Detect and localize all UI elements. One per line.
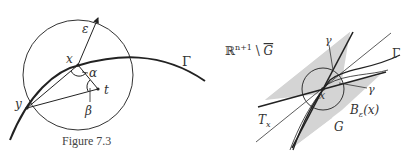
label-x-right: x: [319, 89, 326, 102]
alpha-leader: [82, 72, 88, 73]
gamma-curve: [10, 57, 205, 140]
label-alpha: α: [89, 66, 97, 80]
right-figure: ℝn+1 \ G γ Γ γ x Bε(x) Tx G: [225, 32, 400, 150]
point-y: [25, 106, 28, 109]
label-gamma-top: γ: [325, 34, 332, 47]
label-ball: Bε(x): [349, 103, 380, 119]
label-gamma-curve-right: Γ: [392, 47, 400, 61]
label-gamma-curve: Γ: [182, 54, 191, 69]
left-figure: ε x α t y β Γ Figure 7.3: [10, 18, 205, 148]
figure-caption: Figure 7.3: [62, 134, 111, 148]
beta-angle-arc: [87, 80, 90, 91]
point-x: [76, 63, 79, 66]
label-complement: ℝn+1 \ G: [225, 43, 274, 58]
point-t: [96, 87, 99, 90]
label-t: t: [104, 83, 109, 97]
label-x: x: [66, 52, 73, 66]
diagram-canvas: ε x α t y β Γ Figure 7.3 ℝn+1 \ G γ Γ: [0, 0, 415, 160]
label-beta: β: [84, 104, 92, 118]
figure-page: ε x α t y β Γ Figure 7.3 ℝn+1 \ G γ Γ: [0, 0, 415, 160]
label-tangent: Tx: [258, 113, 271, 129]
label-epsilon: ε: [82, 22, 88, 36]
label-region-g: G: [334, 120, 344, 134]
epsilon-ball-circle: [23, 20, 133, 130]
label-y: y: [14, 97, 22, 111]
label-gamma-right: γ: [368, 83, 375, 96]
